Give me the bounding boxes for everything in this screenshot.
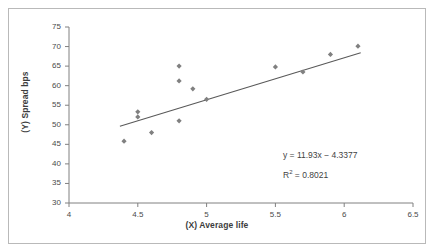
x-axis-tick-marks	[69, 203, 413, 207]
trendline-equation-label: y = 11.93x − 4.3377	[283, 150, 358, 160]
data-point	[176, 64, 181, 69]
data-point	[135, 109, 140, 114]
y-tick-label: 70	[39, 42, 61, 51]
axis-lines	[69, 27, 413, 203]
data-point	[204, 97, 209, 102]
trendline	[120, 53, 361, 127]
x-tick-label: 4.5	[123, 210, 153, 219]
data-point	[135, 114, 140, 119]
x-tick-label: 5	[192, 210, 222, 219]
x-tick-label: 6	[329, 210, 359, 219]
data-points-group	[121, 44, 360, 144]
data-point	[149, 130, 154, 135]
r-squared-label: R2 = 0.8021	[283, 169, 328, 180]
data-point	[190, 86, 195, 91]
r-squared-value: = 0.8021	[295, 170, 328, 180]
y-tick-label: 65	[39, 61, 61, 70]
data-point	[176, 118, 181, 123]
y-tick-label: 75	[39, 22, 61, 31]
y-tick-label: 30	[39, 198, 61, 207]
r-squared-exponent: 2	[289, 169, 292, 175]
y-axis-tick-marks	[65, 27, 69, 203]
y-tick-label: 45	[39, 139, 61, 148]
x-tick-label: 5.5	[260, 210, 290, 219]
y-tick-label: 55	[39, 100, 61, 109]
y-tick-label: 50	[39, 120, 61, 129]
chart-figure: 75706560555045403530 44.555.566.5 (Y) Sp…	[0, 0, 434, 252]
x-tick-label: 6.5	[398, 210, 428, 219]
x-tick-label: 4	[54, 210, 84, 219]
data-point	[328, 52, 333, 57]
y-tick-label: 35	[39, 178, 61, 187]
data-point	[121, 139, 126, 144]
y-tick-label: 60	[39, 81, 61, 90]
data-point	[355, 44, 360, 49]
y-axis-title: (Y) Spread bps	[20, 32, 30, 172]
data-point	[273, 64, 278, 69]
data-point	[176, 78, 181, 83]
chart-frame: 75706560555045403530 44.555.566.5 (Y) Sp…	[8, 8, 426, 244]
x-axis-title: (X) Average life	[9, 220, 425, 230]
y-tick-label: 40	[39, 159, 61, 168]
